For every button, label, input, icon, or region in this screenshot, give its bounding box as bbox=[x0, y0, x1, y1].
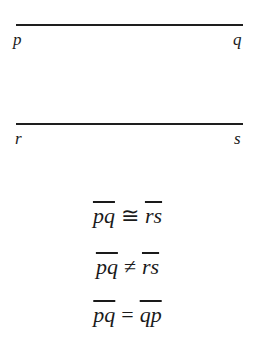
eq1-right: rs bbox=[145, 203, 162, 228]
equation-not-equal: pq≠rs bbox=[0, 254, 255, 280]
label-r: r bbox=[15, 130, 22, 147]
eq2-left: pq bbox=[96, 254, 118, 279]
eq1-left: pq bbox=[93, 203, 115, 228]
equation-equal: pq=qp bbox=[0, 302, 255, 328]
label-p: p bbox=[13, 31, 22, 48]
label-s: s bbox=[234, 130, 241, 147]
label-q: q bbox=[233, 31, 242, 48]
eq2-op: ≠ bbox=[124, 254, 136, 280]
eq1-op: ≅ bbox=[121, 203, 139, 229]
eq3-left: pq bbox=[93, 302, 115, 327]
equation-congruent: pq≅rs bbox=[0, 203, 255, 229]
eq3-op: = bbox=[121, 302, 133, 328]
eq3-right: qp bbox=[140, 302, 162, 327]
eq2-right: rs bbox=[142, 254, 159, 279]
segment-rs bbox=[16, 123, 243, 125]
segment-pq bbox=[16, 24, 243, 26]
